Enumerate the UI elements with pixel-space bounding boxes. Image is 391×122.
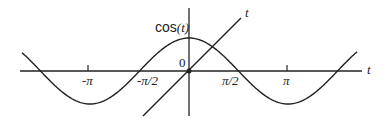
origin-dot: [187, 69, 192, 74]
line-label: t: [245, 5, 249, 20]
tick-label-pi: π: [283, 73, 290, 88]
tick-label-neg-pi-half: -π/2: [137, 73, 158, 88]
curve-label: cos(t): [155, 19, 189, 35]
tick-label-pi-half: π/2: [222, 73, 239, 88]
cosine-diagram: cos(t) t t 0 -π -π/2 π/2 π: [0, 0, 391, 122]
origin-label: 0: [179, 55, 186, 70]
x-axis-label: t: [367, 62, 371, 77]
tick-label-neg-pi: -π: [82, 73, 93, 88]
